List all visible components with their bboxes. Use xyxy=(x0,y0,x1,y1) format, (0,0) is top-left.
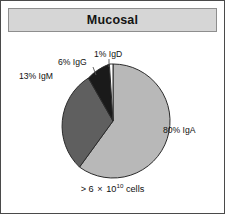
multiplication-sign: × xyxy=(96,184,103,194)
chart-plot-area: 1% IgD 6% IgG 13% IgM 80% IgA > 6 × 1010… xyxy=(8,34,217,207)
slice-label-igd: 1% IgD xyxy=(94,50,122,59)
slice-label-iga: 80% IgA xyxy=(163,126,196,135)
caption-base: 10 xyxy=(104,184,117,194)
chart-caption: > 6 × 1010 cells xyxy=(8,184,217,194)
caption-prefix: > 6 xyxy=(81,184,97,194)
slice-label-igm: 13% IgM xyxy=(19,72,53,81)
slice-label-igg: 6% IgG xyxy=(58,58,87,67)
panel-title-bar: Mucosal xyxy=(8,8,217,32)
mucosal-pie-panel: Mucosal 1% IgD 6% IgG 13% IgM 80% IgA > … xyxy=(0,0,225,214)
page-title: Mucosal xyxy=(87,13,138,27)
pie-chart xyxy=(8,34,217,207)
caption-suffix: cells xyxy=(123,184,144,194)
